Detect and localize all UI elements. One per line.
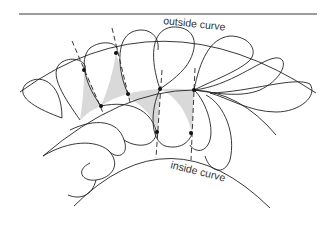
lower-plume-6 xyxy=(205,95,232,170)
feather-spine xyxy=(43,90,276,156)
point-5 xyxy=(158,87,162,91)
outside-curve xyxy=(20,41,316,93)
point-3 xyxy=(99,104,103,108)
point-8 xyxy=(189,131,193,135)
point-2 xyxy=(114,51,118,55)
feather-diagram-svg: outside curve inside curve xyxy=(0,0,335,225)
feather-diagram: outside curve inside curve xyxy=(0,0,335,225)
point-6 xyxy=(192,88,196,92)
point-4 xyxy=(126,92,130,96)
upper-plume-2 xyxy=(56,59,85,120)
shaded-region-1 xyxy=(80,70,101,120)
point-7 xyxy=(155,130,159,134)
upper-plume-1 xyxy=(23,79,62,118)
lower-plume-2 xyxy=(70,123,125,156)
shaded-region-2 xyxy=(101,53,128,106)
outside-curve-label: outside curve xyxy=(163,14,227,32)
shaded-region-4 xyxy=(160,89,194,133)
lower-plume-7 xyxy=(68,180,96,197)
upper-plume-7 xyxy=(194,58,283,94)
point-1 xyxy=(82,68,86,72)
upper-plume-5 xyxy=(154,27,195,89)
shaded-region-3 xyxy=(128,89,160,132)
lower-plume-1 xyxy=(43,143,115,180)
